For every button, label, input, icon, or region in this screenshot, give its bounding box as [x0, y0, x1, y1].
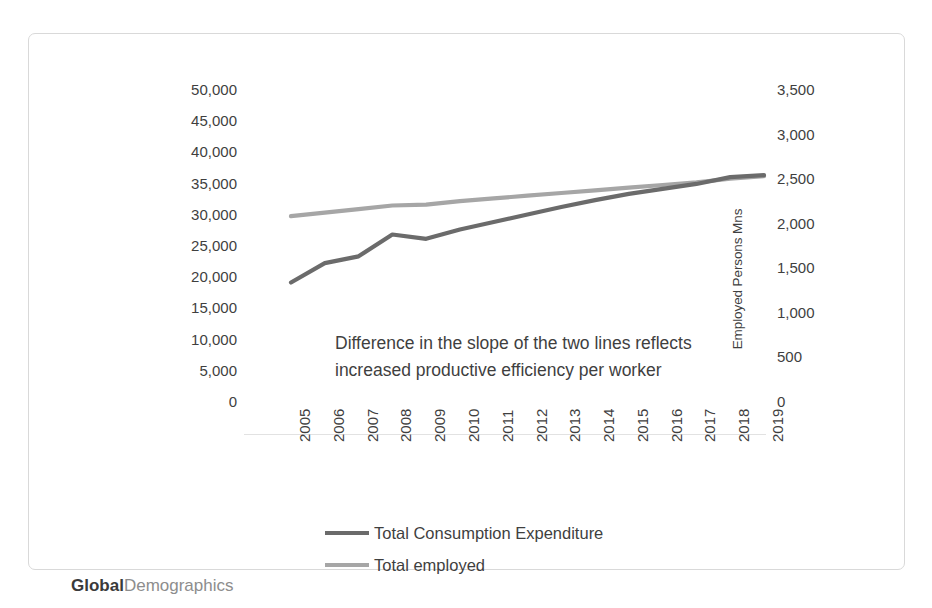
left-axis-ticks: 50,00045,00040,00035,00030,00025,00020,0…	[29, 34, 237, 454]
left-axis-tick: 45,000	[191, 113, 237, 128]
right-axis-tick: 0	[777, 394, 785, 409]
right-axis-ticks: 3,5003,0002,5002,0001,5001,0005000	[777, 34, 867, 454]
x-axis-tick: 2017	[702, 409, 717, 442]
x-axis-tick: 2014	[601, 409, 616, 442]
right-axis-tick: 3,500	[777, 82, 815, 97]
brand-logo: GlobalDemographics	[71, 576, 234, 596]
chart-annotation: Difference in the slope of the two lines…	[335, 330, 755, 383]
right-axis-tick: 2,500	[777, 171, 815, 186]
chart-legend: Total Consumption Expenditure Total empl…	[325, 517, 745, 581]
legend-swatch-total-consumption-expenditure	[325, 531, 369, 535]
series-line-total-employed	[291, 176, 764, 216]
right-axis-tick: 500	[777, 349, 802, 364]
x-axis-tick: 2007	[365, 409, 380, 442]
x-axis-tick: 2008	[398, 409, 413, 442]
legend-item[interactable]: Total employed	[325, 549, 745, 581]
left-axis-tick: 40,000	[191, 144, 237, 159]
right-axis-tick: 3,000	[777, 127, 815, 142]
chart-frame: Global Consumption Expenditure US$ Bns 2…	[28, 33, 905, 570]
brand-name-light: Demographics	[124, 576, 234, 595]
x-axis-tick: 2016	[669, 409, 684, 442]
left-axis-tick: 50,000	[191, 82, 237, 97]
x-axis-tick: 2015	[635, 409, 650, 442]
x-axis-ticks: 2005200620072008200920102011201220132014…	[244, 436, 766, 506]
legend-item[interactable]: Total Consumption Expenditure	[325, 517, 745, 549]
series-line-total-consumption-expenditure	[291, 175, 764, 282]
x-axis-tick: 2013	[567, 409, 582, 442]
legend-label-total-consumption-expenditure: Total Consumption Expenditure	[374, 524, 603, 543]
brand-name-strong: Global	[71, 576, 124, 595]
x-axis-tick: 2011	[500, 410, 515, 442]
x-axis-tick: 2006	[331, 409, 346, 442]
left-axis-tick: 20,000	[191, 269, 237, 284]
screenshot-root: Global Consumption Expenditure US$ Bns 2…	[0, 0, 932, 608]
x-axis-tick: 2018	[736, 409, 751, 442]
legend-label-total-employed: Total employed	[374, 556, 485, 575]
right-axis-tick: 1,500	[777, 260, 815, 275]
left-axis-tick: 5,000	[199, 363, 237, 378]
x-axis-tick: 2019	[770, 409, 785, 442]
left-axis-tick: 35,000	[191, 176, 237, 191]
left-axis-tick: 10,000	[191, 332, 237, 347]
right-axis-tick: 2,000	[777, 216, 815, 231]
x-axis-tick: 2010	[466, 409, 481, 442]
left-axis-tick: 15,000	[191, 300, 237, 315]
left-axis-tick: 30,000	[191, 207, 237, 222]
x-axis-tick: 2012	[534, 409, 549, 442]
x-axis-tick: 2009	[432, 409, 447, 442]
right-axis-tick: 1,000	[777, 305, 815, 320]
left-axis-tick: 0	[229, 394, 237, 409]
x-axis-tick: 2005	[297, 409, 312, 442]
left-axis-tick: 25,000	[191, 238, 237, 253]
legend-swatch-total-employed	[325, 563, 369, 567]
